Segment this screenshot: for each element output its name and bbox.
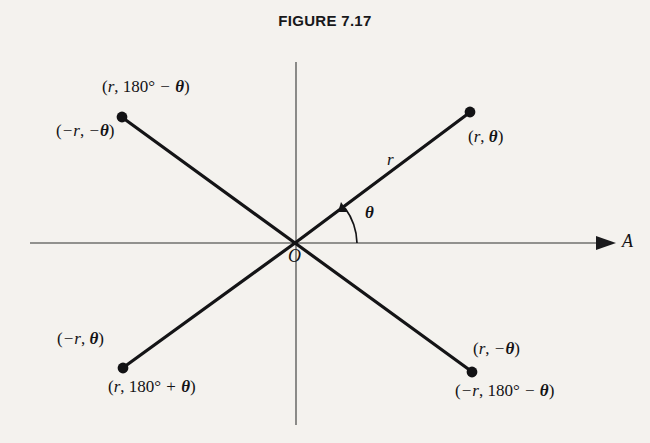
point-upper-right-label-primary: (r, θ) [468, 128, 503, 145]
point-upper-right-dot [465, 107, 476, 118]
polar-axis-label: A [622, 231, 633, 252]
ray-upper-right-line [295, 113, 469, 243]
ray-lower-right-line [295, 243, 471, 371]
polar-axis-arrowhead [596, 236, 616, 250]
polar-coordinate-figure: FIGURE 7.17 (r, 180° − θ) (−r, −θ) (r, θ… [0, 0, 650, 443]
point-lower-left-dot [118, 363, 129, 374]
polar-diagram-canvas [0, 0, 650, 443]
angle-theta-label: θ [365, 203, 374, 223]
point-lower-left-label-secondary: (r, 180° + θ) [108, 378, 196, 395]
point-lower-right-label-primary: (r, −θ) [473, 340, 520, 357]
point-lower-right-dot [467, 367, 478, 378]
point-upper-left-label-secondary: (−r, −θ) [56, 122, 114, 139]
ray-lower-left-line [124, 243, 295, 367]
point-lower-left-label-primary: (−r, θ) [57, 330, 104, 347]
point-upper-left-dot [117, 112, 128, 123]
point-lower-right-label-secondary: (−r, 180° − θ) [455, 382, 554, 399]
ray-upper-left-line [123, 118, 295, 243]
angle-theta-arc [345, 208, 357, 243]
point-upper-left-label-primary: (r, 180° − θ) [102, 78, 190, 95]
radius-label: r [387, 150, 394, 170]
origin-label: O [288, 246, 301, 267]
